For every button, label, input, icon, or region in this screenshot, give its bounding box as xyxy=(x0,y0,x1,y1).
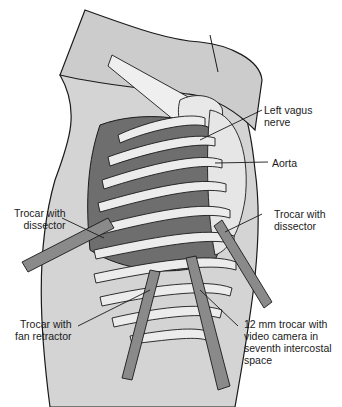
thoracoscopy-diagram: Left vagus nerve Aorta Trocar with disse… xyxy=(0,0,342,407)
label-trocar-fan-retractor: Trocar with fan retractor xyxy=(15,318,72,342)
label-trocar-camera: 12 mm trocar with video camera in sevent… xyxy=(244,318,332,366)
label-aorta: Aorta xyxy=(272,157,297,169)
label-left-vagus-nerve: Left vagus nerve xyxy=(264,104,312,128)
label-trocar-dissector-left: Trocar with dissector xyxy=(14,207,66,231)
label-trocar-dissector-right: Trocar with dissector xyxy=(274,208,326,232)
